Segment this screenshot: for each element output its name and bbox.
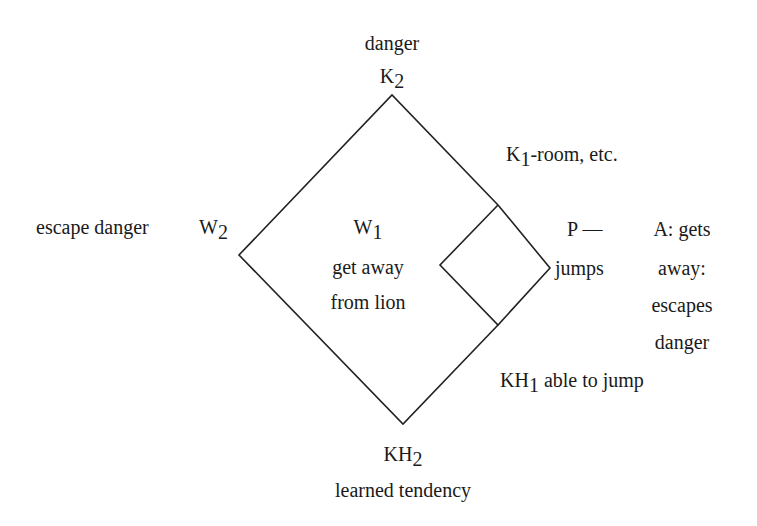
w1-node: W1: [354, 215, 383, 239]
p-label: P —: [567, 217, 602, 241]
w1-text: W: [354, 216, 373, 238]
center-line1: get away: [332, 255, 404, 279]
kh1-desc: able to jump: [539, 369, 644, 391]
diagram-canvas: danger K2 K1-room, etc. escape danger W2…: [0, 0, 757, 526]
k1-label: K1-room, etc.: [506, 142, 618, 166]
kh2-text: KH: [384, 443, 413, 465]
outcome-line2: away:: [658, 256, 706, 280]
left-label: escape danger: [36, 215, 149, 239]
kh2-node: KH2: [384, 442, 423, 466]
jumps-label: jumps: [555, 256, 604, 280]
top-label: danger: [365, 31, 419, 55]
w2-sub: 2: [218, 221, 228, 243]
outcome-line4: danger: [655, 330, 709, 354]
inner-diamond: [440, 205, 550, 325]
kh1-text: KH: [500, 369, 529, 391]
kh2-sub: 2: [412, 448, 422, 470]
w2-node: W2: [199, 215, 228, 239]
center-line2: from lion: [331, 290, 406, 314]
k2-text: K: [380, 65, 394, 87]
k2-sub: 2: [394, 70, 404, 92]
k2-node: K2: [380, 64, 404, 88]
w2-text: W: [199, 216, 218, 238]
k1-desc: -room, etc.: [530, 143, 617, 165]
k1-sub: 1: [520, 148, 530, 170]
bottom-label: learned tendency: [335, 478, 471, 502]
w1-sub: 1: [372, 221, 382, 243]
kh1-sub: 1: [529, 374, 539, 396]
outcome-line1: A: gets: [653, 217, 710, 241]
outcome-line3: escapes: [651, 293, 712, 317]
k1-text: K: [506, 143, 520, 165]
kh1-label: KH1 able to jump: [500, 368, 644, 392]
